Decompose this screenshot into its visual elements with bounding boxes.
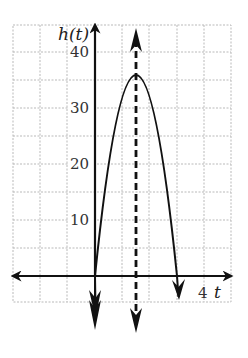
y-tick-30: 30 xyxy=(70,99,89,117)
grid xyxy=(13,25,231,302)
y-tick-20: 20 xyxy=(70,155,89,173)
x-axis-label: t xyxy=(214,282,221,302)
x-tick-4: 4 xyxy=(198,284,208,302)
y-tick-40: 40 xyxy=(70,43,89,61)
parabola-chart: h(t) t 40 30 20 10 4 xyxy=(0,0,248,358)
y-axis-label: h(t) xyxy=(58,24,89,44)
y-tick-10: 10 xyxy=(70,211,89,229)
